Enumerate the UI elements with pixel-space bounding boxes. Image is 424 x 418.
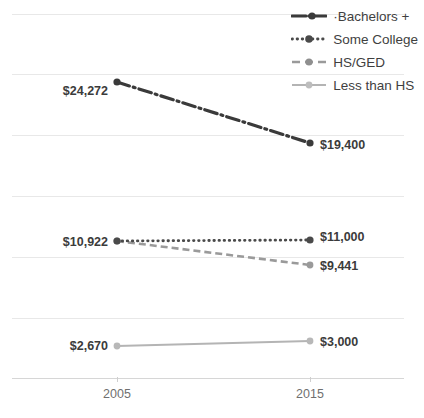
series-line-hs-ged — [117, 241, 310, 265]
legend-label-some-college: Some College — [333, 32, 418, 47]
data-label-some-college-2015: $11,000 — [320, 230, 365, 244]
legend-label-bachelors: ·Bachelors + — [333, 9, 409, 24]
data-label-hs-ged-2015: $9,441 — [320, 259, 358, 273]
series-point-some-college-2005 — [113, 237, 120, 244]
data-label-bachelors-2015: $19,400 — [320, 138, 365, 152]
chart-container: $24,272 $19,400 $10,922 $11,000 $9,441 $… — [0, 0, 424, 418]
legend-item-less-than-hs[interactable]: Less than HS — [291, 77, 418, 93]
data-label-bachelors-2005: $24,272 — [63, 84, 108, 98]
chart-legend: ·Bachelors + Some College HS/GED — [291, 8, 418, 93]
legend-item-hs-ged[interactable]: HS/GED — [291, 54, 418, 70]
series-point-less-than-hs-2005 — [114, 343, 121, 350]
x-axis-label-2005: 2005 — [103, 387, 131, 401]
series-line-less-than-hs — [117, 341, 310, 346]
legend-swatch-less-than-hs-icon — [291, 78, 327, 92]
legend-item-bachelors[interactable]: ·Bachelors + — [291, 8, 418, 24]
x-axis-label-2015: 2015 — [296, 387, 324, 401]
series-line-bachelors — [117, 82, 310, 143]
series-line-some-college — [117, 240, 310, 241]
series-point-hs-ged-2015 — [307, 262, 314, 269]
legend-label-hs-ged: HS/GED — [333, 55, 385, 70]
legend-swatch-some-college-icon — [291, 32, 327, 46]
series-point-some-college-2015 — [306, 236, 313, 243]
series-point-bachelors-2005 — [113, 78, 120, 85]
legend-swatch-hs-ged-icon — [291, 55, 327, 69]
series-point-less-than-hs-2015 — [307, 338, 314, 345]
legend-label-less-than-hs: Less than HS — [333, 78, 414, 93]
legend-item-some-college[interactable]: Some College — [291, 31, 418, 47]
legend-swatch-bachelors-icon — [291, 9, 327, 23]
series-point-bachelors-2015 — [306, 139, 313, 146]
data-label-middle-2005: $10,922 — [63, 235, 108, 249]
data-label-less-than-hs-2015: $3,000 — [320, 335, 358, 349]
data-label-less-than-hs-2005: $2,670 — [70, 339, 108, 353]
